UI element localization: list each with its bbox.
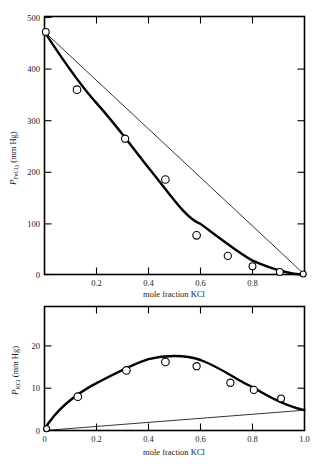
bottom-panel-fitted-curve xyxy=(45,356,305,429)
bottom-panel-data-points xyxy=(44,358,285,432)
top-xtick-0p8: 0.8 xyxy=(247,278,258,288)
data-point xyxy=(227,379,234,386)
bottom-panel-plot-frame xyxy=(45,307,305,431)
data-point xyxy=(44,426,50,432)
top-panel: PFeCl3 (mm Hg) 0 100 200 xyxy=(8,13,306,300)
top-panel-y-ticks xyxy=(45,18,305,275)
data-point xyxy=(300,271,306,277)
bottom-ytick-0: 0 xyxy=(36,426,40,436)
top-ytick-200: 200 xyxy=(27,167,40,177)
top-xtick-0p6: 0.6 xyxy=(195,278,206,288)
bottom-ytick-20: 20 xyxy=(32,341,41,351)
top-ytick-0: 0 xyxy=(36,270,40,280)
data-point xyxy=(250,386,257,393)
bottom-panel: PKCl (mm Hg) 0 10 20 xyxy=(10,307,310,458)
top-panel-y-axis-title: PFeCl3 (mm Hg) xyxy=(8,131,20,186)
data-point xyxy=(278,395,285,402)
data-point xyxy=(249,263,256,270)
data-point xyxy=(123,367,131,375)
bottom-xtick-0p4: 0.4 xyxy=(143,434,154,444)
top-panel-plot-frame xyxy=(45,17,305,275)
bottom-ytick-10: 10 xyxy=(32,383,41,393)
top-ytick-300: 300 xyxy=(27,116,40,126)
data-point xyxy=(193,363,200,370)
data-point xyxy=(224,252,231,259)
bottom-panel-y-ticks xyxy=(45,346,305,431)
figure-container: PFeCl3 (mm Hg) 0 100 200 xyxy=(0,0,317,470)
top-panel-y-axis-title-text: PFeCl3 (mm Hg) xyxy=(8,131,20,186)
top-panel-ideal-line xyxy=(45,32,305,275)
two-panel-vapor-pressure-figure: PFeCl3 (mm Hg) 0 100 200 xyxy=(0,0,317,470)
bottom-panel-y-axis-title-text: PKCl (mm Hg) xyxy=(10,346,21,396)
top-panel-x-ticks xyxy=(97,17,253,275)
bottom-xtick-0p2: 0.2 xyxy=(91,434,102,444)
bottom-xtick-1p0: 1.0 xyxy=(299,434,310,444)
top-ytick-400: 400 xyxy=(27,64,40,74)
bottom-panel-x-axis-title: mole fraction KCl xyxy=(143,447,205,457)
bottom-panel-y-axis-title: PKCl (mm Hg) xyxy=(10,346,21,396)
data-point xyxy=(42,29,49,36)
data-point xyxy=(122,135,129,142)
data-point xyxy=(162,358,170,366)
bottom-xtick-0: 0 xyxy=(42,434,46,444)
data-point xyxy=(73,86,81,94)
bottom-xtick-0p8: 0.8 xyxy=(247,434,258,444)
top-ytick-500: 500 xyxy=(27,13,40,23)
top-xtick-0p2: 0.2 xyxy=(91,278,102,288)
data-point xyxy=(193,232,201,240)
top-y-subscript: FeCl xyxy=(13,167,19,179)
top-ytick-100: 100 xyxy=(27,219,40,229)
top-panel-x-axis-title: mole fraction KCl xyxy=(143,289,205,299)
bottom-xtick-0p6: 0.6 xyxy=(195,434,206,444)
bottom-panel-x-ticks xyxy=(97,307,253,431)
bottom-y-subscript: KCl xyxy=(15,379,21,389)
data-point xyxy=(276,269,283,276)
bottom-panel-ideal-line xyxy=(45,410,305,430)
top-xtick-0p4: 0.4 xyxy=(143,278,154,288)
data-point xyxy=(74,393,82,401)
data-point xyxy=(162,176,170,184)
